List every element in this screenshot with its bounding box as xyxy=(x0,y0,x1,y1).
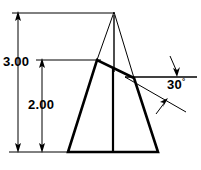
arrowhead-angle-upper xyxy=(173,67,180,77)
angle-leader-lower xyxy=(156,102,165,114)
degree-symbol-icon: ° xyxy=(182,77,185,86)
engineering-drawing: 3.00 2.00 30° xyxy=(0,0,201,170)
dimension-label-overall-height: 3.00 xyxy=(3,55,29,68)
angle-value: 30 xyxy=(167,77,182,92)
dimension-label-shoulder-height: 2.00 xyxy=(28,98,54,111)
dimension-label-slant-angle: 30° xyxy=(167,78,185,91)
